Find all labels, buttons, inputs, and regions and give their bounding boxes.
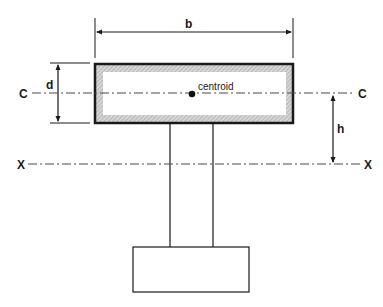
label-c-left: C [19, 87, 28, 101]
base-block [133, 247, 249, 292]
label-h: h [337, 122, 344, 136]
reference-axis-xx: X X [17, 158, 372, 172]
offset-dimension-h: h [333, 96, 344, 162]
label-d: d [46, 78, 53, 92]
label-x-left: X [17, 158, 25, 172]
width-dimension-b: b [95, 17, 293, 58]
label-x-right: X [364, 158, 372, 172]
label-c-right: C [358, 87, 367, 101]
centroid-dot-icon [189, 91, 196, 98]
web [170, 124, 213, 247]
t-section-diagram: b d C C centroid X X h [0, 0, 383, 307]
label-b: b [185, 17, 192, 31]
label-centroid: centroid [198, 81, 234, 92]
